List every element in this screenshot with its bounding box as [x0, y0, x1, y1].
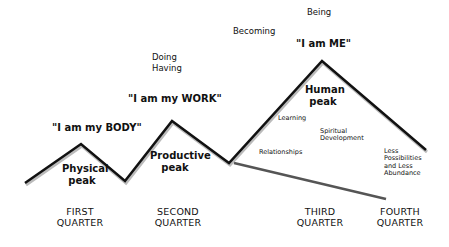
- quarter-third: THIRD QUARTER: [294, 207, 346, 229]
- quarter-first: FIRST QUARTER: [54, 207, 106, 229]
- productive-peak-label: Productive peak: [150, 150, 200, 173]
- quote-me: "I am ME": [296, 38, 351, 50]
- quarter-fourth: FOURTH QUARTER: [372, 207, 428, 229]
- spiritual-development-label: Spiritual Development: [320, 128, 364, 143]
- quote-body: "I am my BODY": [52, 122, 142, 134]
- quote-work: "I am my WORK": [128, 93, 222, 105]
- human-peak-label: Human peak: [305, 84, 341, 107]
- having-label: Having: [152, 64, 182, 74]
- physical-peak-label: Physical peak: [62, 163, 102, 186]
- less-abundance-label: Less Possibilities and Less Abundance: [384, 148, 422, 178]
- becoming-label: Becoming: [233, 27, 275, 37]
- doing-label: Doing: [152, 53, 177, 63]
- learning-label: Learning: [278, 115, 306, 122]
- relationships-label: Relationships: [259, 149, 302, 156]
- decline-line: [234, 163, 386, 199]
- quarter-second: SECOND QUARTER: [152, 207, 204, 229]
- being-label: Being: [307, 8, 331, 18]
